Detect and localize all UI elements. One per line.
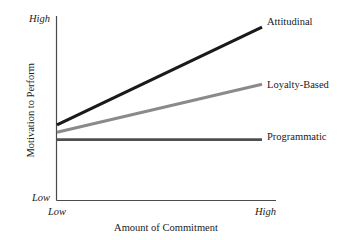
series-line-loyalty-based [57, 84, 262, 132]
chart-plot-area [0, 0, 341, 240]
commitment-motivation-chart: High Low Low High Motivation to Perform … [0, 0, 341, 240]
y-axis-title: Motivation to Perform [26, 35, 37, 185]
x-axis-tick-low: Low [48, 207, 66, 218]
series-label-attitudinal: Attitudinal [267, 17, 313, 28]
series-label-loyalty-based: Loyalty-Based [267, 80, 329, 91]
x-axis-tick-high: High [255, 207, 276, 218]
series-line-attitudinal [57, 27, 262, 125]
series-label-programmatic: Programmatic [267, 132, 326, 143]
y-axis-tick-low: Low [14, 193, 50, 204]
y-axis-tick-high: High [14, 14, 50, 25]
x-axis-title: Amount of Commitment [56, 223, 276, 234]
